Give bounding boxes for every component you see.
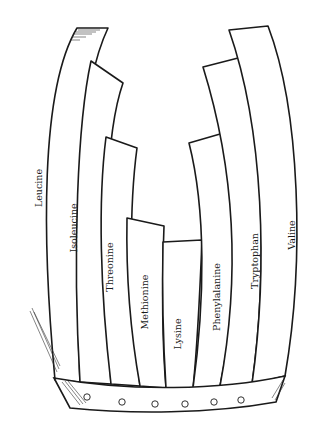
- rivet-hole: [119, 399, 125, 405]
- label-isoleucine: Isoleucine: [68, 203, 79, 253]
- label-methionine: Methionine: [139, 274, 150, 329]
- rivet-hole: [84, 394, 90, 400]
- amino-acid-barrel-diagram: Leucine Isoleucine Threonine Methionine …: [0, 0, 329, 431]
- label-lysine: Lysine: [172, 318, 183, 350]
- label-leucine: Leucine: [33, 169, 44, 208]
- rivet-hole: [238, 397, 244, 403]
- label-phenylalanine: Phenylalanine: [211, 263, 222, 331]
- label-tryptophan: Tryptophan: [249, 233, 260, 289]
- label-threonine: Threonine: [104, 242, 115, 292]
- label-valine: Valine: [286, 220, 297, 251]
- rivet-hole: [182, 401, 188, 407]
- rivet-hole: [211, 399, 217, 405]
- rivet-hole: [152, 401, 158, 407]
